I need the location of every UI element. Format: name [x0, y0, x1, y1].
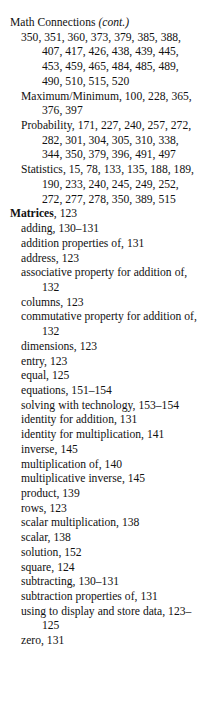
index-entry-locators: , 131 [114, 413, 137, 426]
index-entry: equal, 125 [10, 369, 199, 384]
index-entry-heading: dimensions [21, 340, 74, 353]
index-entry-heading: Matrices [10, 207, 54, 220]
index-entry-heading: commutative property for addition of [21, 310, 194, 323]
index-entry-heading: address [21, 252, 56, 265]
index-entry: product, 139 [10, 487, 199, 502]
index-entry: rows, 123 [10, 502, 199, 517]
index-entry-heading: inverse [21, 443, 54, 456]
index-entry-locators: , 123 [74, 340, 97, 353]
index-entry-locators: , 124 [51, 561, 74, 574]
index-entry-locators: , 130–131 [53, 222, 99, 235]
index-entry: identity for multiplication, 141 [10, 428, 199, 443]
index-entry-heading: associative property for addition of [21, 266, 184, 279]
index-entry: zero, 131 [10, 634, 199, 649]
index-entry-locators: , 15, 78, 133, 135, 188, 189, 190, 233, … [42, 163, 194, 205]
index-entry-heading: equal [21, 369, 46, 382]
index-entry-heading: scalar multiplication [21, 516, 116, 529]
index-entry: Matrices, 123 [10, 207, 199, 222]
index-entry-heading: Probability [21, 119, 72, 132]
index-entry-locators: , 138 [48, 531, 71, 544]
index-entry-locators: , 123 [60, 296, 83, 309]
index-entry-locators: , 140 [99, 458, 122, 471]
index-entry-heading: zero [21, 634, 41, 647]
index-entry-heading: subtraction properties of [21, 590, 135, 603]
index-entry: Statistics, 15, 78, 133, 135, 188, 189, … [10, 163, 199, 207]
index-entry-locators: , 151–154 [65, 384, 111, 397]
index-entry-heading: identity for addition [21, 413, 114, 426]
index-entry: dimensions, 123 [10, 340, 199, 355]
index-entry: address, 123 [10, 252, 199, 267]
index-entry-locators: 350, 351, 360, 373, 379, 385, 388, 407, … [21, 31, 181, 88]
index-entry: entry, 123 [10, 355, 199, 370]
index-entry-heading: square [21, 561, 51, 574]
index-entry: subtraction properties of, 131 [10, 590, 199, 605]
index-entry: subtracting, 130–131 [10, 575, 199, 590]
index-entry-heading: multiplicative inverse [21, 472, 122, 485]
index-entry: equations, 151–154 [10, 384, 199, 399]
index-entry-locators: , 141 [141, 428, 164, 441]
index-entry-locators: , 131 [121, 237, 144, 250]
index-entry-locators: , 138 [116, 516, 139, 529]
index-entry-locators: , 139 [56, 487, 79, 500]
index-entry-continuation-marker: (cont.) [95, 16, 129, 29]
index-entry: 350, 351, 360, 373, 379, 385, 388, 407, … [10, 31, 199, 90]
index-entry-heading: Statistics [21, 163, 63, 176]
index-column: Math Connections (cont.)350, 351, 360, 3… [0, 0, 201, 717]
index-entry: Math Connections (cont.) [10, 16, 199, 31]
index-entry-locators: , 123 [44, 502, 67, 515]
index-entry: scalar, 138 [10, 531, 199, 546]
index-entry: solving with technology, 153–154 [10, 399, 199, 414]
index-entry: identity for addition, 131 [10, 413, 199, 428]
index-entry-locators: , 123 [54, 207, 77, 220]
index-entry-heading: addition properties of [21, 237, 121, 250]
index-entry-locators: , 153–154 [133, 399, 179, 412]
index-entry-locators: , 123 [44, 355, 67, 368]
index-entry-heading: multiplication of [21, 458, 99, 471]
index-entry-locators: , 145 [54, 443, 77, 456]
index-entry-locators: , 123 [56, 252, 79, 265]
index-entry: square, 124 [10, 561, 199, 576]
index-entry: Maximum/Minimum, 100, 228, 365, 376, 397 [10, 90, 199, 119]
index-entry-heading: solving with technology [21, 399, 133, 412]
index-entry: inverse, 145 [10, 443, 199, 458]
index-entry: multiplicative inverse, 145 [10, 472, 199, 487]
index-entry-heading: identity for multiplication [21, 428, 141, 441]
index-entry-locators: , 130–131 [73, 575, 119, 588]
index-entry-heading: product [21, 487, 56, 500]
index-entry-heading: columns [21, 296, 60, 309]
index-entry-heading: rows [21, 502, 44, 515]
index-entry-locators: , 152 [58, 546, 81, 559]
index-entry-heading: equations [21, 384, 65, 397]
index-entry-heading: using to display and store data [21, 605, 162, 618]
index-entry: multiplication of, 140 [10, 458, 199, 473]
index-entry-heading: Math Connections [10, 16, 95, 29]
index-entry-heading: solution [21, 546, 58, 559]
index-entry-heading: subtracting [21, 575, 73, 588]
index-entry-locators: , 145 [122, 472, 145, 485]
index-entry-locators: , 125 [46, 369, 69, 382]
index-entry-heading: scalar [21, 531, 48, 544]
index-entry: associative property for addition of, 13… [10, 266, 199, 295]
index-entry-locators: , 131 [135, 590, 158, 603]
index-entry: commutative property for addition of, 13… [10, 310, 199, 339]
index-entry: adding, 130–131 [10, 222, 199, 237]
index-entry: scalar multiplication, 138 [10, 516, 199, 531]
index-entry-heading: entry [21, 355, 44, 368]
index-entry-heading: adding [21, 222, 53, 235]
index-entry: solution, 152 [10, 546, 199, 561]
index-entry: addition properties of, 131 [10, 237, 199, 252]
index-entry: using to display and store data, 123–125 [10, 605, 199, 634]
index-entry: Probability, 171, 227, 240, 257, 272, 28… [10, 119, 199, 163]
index-entry-locators: , 131 [41, 634, 64, 647]
index-entry-heading: Maximum/Minimum [21, 90, 119, 103]
index-entry: columns, 123 [10, 296, 199, 311]
